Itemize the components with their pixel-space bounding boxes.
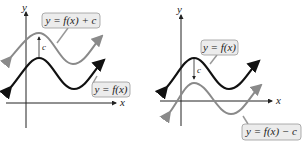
y-axis-label: y [21, 1, 27, 13]
shift-label: c [197, 65, 201, 75]
callout-line [57, 28, 68, 43]
base-curve-label: y = f(x) [202, 41, 236, 54]
diagram-canvas: y x c y = f(x) + c y = f(x) y x c y = f(… [0, 0, 303, 149]
callout-line [210, 55, 217, 64]
shifted-down-curve [170, 83, 261, 114]
x-axis-label: x [119, 96, 125, 108]
left-graph: y x c y = f(x) + c y = f(x) [6, 1, 130, 128]
base-curve [11, 58, 104, 89]
base-curve-label: y = f(x) [93, 83, 127, 96]
callout-line [243, 116, 248, 124]
shift-label: c [42, 42, 46, 52]
right-graph: y x c y = f(x) y = f(x) − c [160, 3, 301, 140]
x-axis-label: x [275, 94, 281, 106]
lower-curve-label: y = f(x) − c [245, 125, 297, 138]
vertical-shift-diagram: y x c y = f(x) + c y = f(x) y x c y = f(… [0, 0, 303, 149]
upper-curve-label: y = f(x) + c [45, 14, 97, 27]
y-axis-label: y [176, 3, 182, 15]
shifted-up-curve [11, 33, 102, 64]
